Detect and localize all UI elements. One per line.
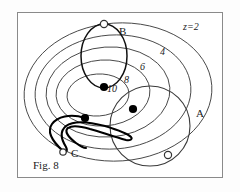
figure-caption: Fig. 8	[33, 160, 59, 171]
curve-c-loop	[50, 116, 132, 152]
circle-a-bottom	[164, 151, 171, 158]
curve-label-c: C	[71, 148, 78, 159]
contour-label-10: 10	[107, 84, 117, 94]
contour-lines	[19, 17, 216, 168]
contour-level-8	[54, 57, 152, 129]
contour-label-6: 6	[140, 62, 145, 72]
dot-a-top	[129, 105, 137, 113]
curve-label-b: B	[119, 26, 126, 37]
dot-c-top	[81, 114, 89, 122]
contour-label-4: 4	[160, 47, 165, 57]
circle-b-top	[100, 20, 107, 27]
contour-label-z2: z=2	[183, 22, 199, 32]
circle-c-bottom	[60, 149, 66, 155]
figure-canvas: z=2 4 6 8 10 A B C Fig. 8	[0, 0, 240, 192]
contour-level-2	[19, 17, 216, 168]
curve-a-loop	[110, 86, 190, 166]
curve-label-a: A	[196, 108, 204, 119]
contour-label-8: 8	[124, 75, 129, 85]
